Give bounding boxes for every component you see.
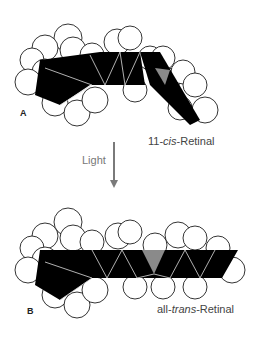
molecule-diagrams bbox=[0, 0, 268, 344]
molecule-b-all-trans-retinal bbox=[15, 208, 245, 318]
caption-11-cis-retinal: 11-cis-Retinal bbox=[148, 135, 214, 147]
caption-italic: trans bbox=[172, 303, 196, 315]
caption-prefix: all- bbox=[157, 303, 172, 315]
caption-suffix: -Retinal bbox=[177, 135, 215, 147]
caption-italic: cis bbox=[163, 135, 176, 147]
light-label: Light bbox=[82, 154, 106, 166]
caption-all-trans-retinal: all-trans-Retinal bbox=[157, 303, 234, 315]
light-arrow-icon bbox=[110, 142, 118, 188]
retinal-isomerization-figure: A 11-cis-Retinal Light B all-trans-Retin… bbox=[0, 0, 268, 344]
panel-label-b: B bbox=[27, 306, 34, 316]
caption-prefix: 11- bbox=[148, 135, 163, 147]
caption-suffix: -Retinal bbox=[196, 303, 234, 315]
panel-label-a: A bbox=[20, 108, 27, 118]
molecule-a-11-cis-retinal bbox=[15, 24, 218, 126]
